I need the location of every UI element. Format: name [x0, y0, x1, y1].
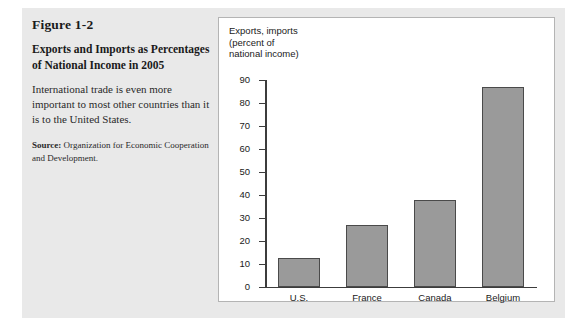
- y-tick-label: 10: [239, 258, 250, 269]
- figure-number: Figure 1-2: [32, 17, 214, 33]
- x-axis-label: Canada: [401, 292, 469, 303]
- y-tick-label: 50: [239, 166, 250, 177]
- x-axis-label: U.S.: [265, 292, 333, 303]
- x-axis-line: [265, 287, 537, 289]
- figure-panel: Figure 1-2 Exports and Imports as Percen…: [22, 8, 565, 318]
- bar: [278, 258, 321, 287]
- y-tick-mark: 90: [259, 80, 265, 81]
- y-tick-mark: 50: [259, 172, 265, 173]
- caption-column: Figure 1-2 Exports and Imports as Percen…: [32, 17, 214, 164]
- bar: [414, 200, 457, 286]
- y-tick-label: 0: [245, 281, 250, 292]
- y-tick-label: 90: [239, 74, 250, 85]
- y-tick-mark: 10: [259, 264, 265, 265]
- y-tick-label: 60: [239, 143, 250, 154]
- y-tick-label: 70: [239, 120, 250, 131]
- y-tick-label: 40: [239, 189, 250, 200]
- y-tick-mark: 80: [259, 103, 265, 104]
- y-axis-caption: Exports, imports (percent of national in…: [229, 25, 299, 60]
- y-axis-line: [265, 80, 267, 288]
- y-tick-mark: 20: [259, 241, 265, 242]
- x-axis-label: Belgium: [469, 292, 537, 303]
- bar-chart-plot: 0102030405060708090 U.S.FranceCanadaBelg…: [265, 80, 537, 288]
- x-axis-label: France: [333, 292, 401, 303]
- y-tick-label: 20: [239, 235, 250, 246]
- figure-description: International trade is even more importa…: [32, 82, 214, 127]
- y-tick-mark: 40: [259, 195, 265, 196]
- bar: [482, 87, 525, 287]
- source-label: Source:: [32, 140, 61, 150]
- y-tick-mark: 30: [259, 218, 265, 219]
- figure-title: Exports and Imports as Percentages of Na…: [32, 42, 214, 73]
- y-tick-label: 30: [239, 212, 250, 223]
- y-tick-label: 80: [239, 97, 250, 108]
- y-tick-mark: 0: [259, 287, 265, 288]
- chart-panel: Exports, imports (percent of national in…: [218, 17, 555, 302]
- bar: [346, 225, 389, 287]
- y-tick-mark: 60: [259, 149, 265, 150]
- y-tick-mark: 70: [259, 126, 265, 127]
- source-note: Source: Organization for Economic Cooper…: [32, 139, 214, 164]
